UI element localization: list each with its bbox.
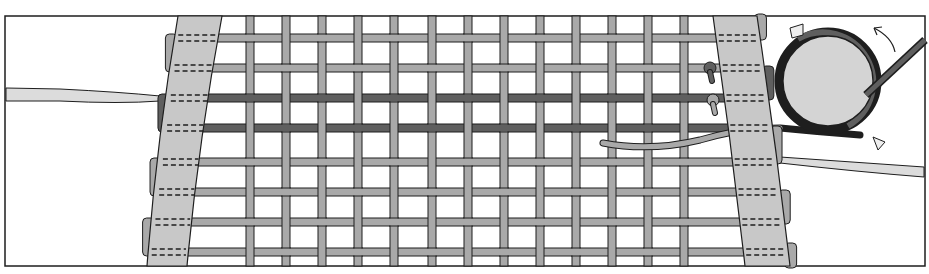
weft-over-crossing [643,189,653,196]
weft-over-crossing [245,219,255,226]
weft-over-crossing [571,65,581,72]
warp-strand [390,16,398,266]
weft-over-crossing [643,125,653,132]
weft-over-crossing [607,159,617,166]
weft-over-crossing [389,35,399,42]
warp-strand [428,16,436,266]
weft-over-crossing [643,65,653,72]
weft-over-crossing [607,219,617,226]
warp-strand [572,16,580,266]
weft-over-crossing [679,159,689,166]
weft-over-crossing [281,189,291,196]
weft-over-crossing [607,35,617,42]
weft-over-crossing [245,95,255,102]
weft-over-crossing [245,159,255,166]
weft-over-crossing [679,35,689,42]
knot-tail [710,72,712,81]
weaving-illustration [0,0,929,274]
roller [783,36,873,126]
weft-over-crossing [317,159,327,166]
weft-over-crossing [353,65,363,72]
weft-over-crossing [353,249,363,256]
weft-over-crossing [427,125,437,132]
weft-over-crossing [571,125,581,132]
warp-strand [536,16,544,266]
weft-over-crossing [463,219,473,226]
weft-over-crossing [535,35,545,42]
weft-over-crossing [389,219,399,226]
weft-over-crossing [571,189,581,196]
warp-strand [644,16,652,266]
weft-over-crossing [571,249,581,256]
weft-over-crossing [317,35,327,42]
weft-over-crossing [353,125,363,132]
weft-over-crossing [499,125,509,132]
weaving-diagram [0,0,929,274]
weft-over-crossing [245,35,255,42]
weft-over-crossing [679,95,689,102]
weft-over-crossing [535,159,545,166]
weft-over-crossing [463,35,473,42]
weft-over-crossing [427,189,437,196]
weft-over-crossing [535,95,545,102]
weft-over-crossing [281,125,291,132]
weft-over-crossing [317,95,327,102]
knot-tail [713,104,715,113]
weft-over-crossing [679,219,689,226]
warp-strand [246,16,254,266]
warp-strand [500,16,508,266]
weft-over-crossing [389,95,399,102]
weft-over-crossing [427,65,437,72]
warp-strand [464,16,472,266]
weft-over-crossing [353,189,363,196]
warp-strand [318,16,326,266]
weft-over-crossing [499,249,509,256]
weft-over-crossing [463,95,473,102]
warp-strand [282,16,290,266]
weft-over-crossing [535,219,545,226]
weft-over-crossing [281,249,291,256]
weft-over-crossing [281,65,291,72]
weft-over-crossing [427,249,437,256]
warp-strand [354,16,362,266]
weft-over-crossing [389,159,399,166]
weft-over-crossing [499,65,509,72]
weft-over-crossing [607,95,617,102]
weft-over-crossing [499,189,509,196]
weft-over-crossing [643,249,653,256]
weft-over-crossing [317,219,327,226]
weft-over-crossing [463,159,473,166]
